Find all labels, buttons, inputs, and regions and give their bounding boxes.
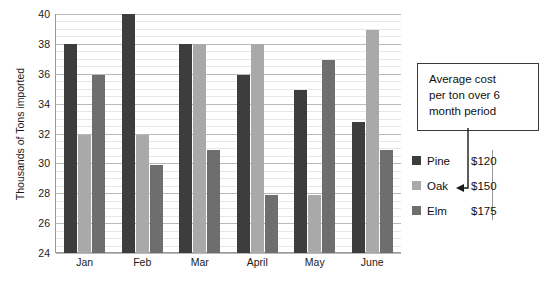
legend-item-label: Elm <box>427 205 471 217</box>
legend-item-pine[interactable]: Pine$120 <box>412 148 542 173</box>
x-axis-tick-label: Jan <box>56 256 114 269</box>
bar-group <box>286 14 344 253</box>
bar-oak[interactable] <box>251 44 264 253</box>
bar-group <box>114 14 172 253</box>
y-axis-tick-label: 32 <box>8 129 50 139</box>
legend-item-label: Oak <box>427 180 471 192</box>
x-axis-tick-label: May <box>286 256 344 269</box>
legend: Pine$120Oak$150Elm$175 <box>412 148 542 223</box>
bar-pine[interactable] <box>352 122 365 253</box>
bar-oak[interactable] <box>193 44 206 253</box>
bar-pine[interactable] <box>294 90 307 253</box>
callout-line-3: month period <box>429 103 538 119</box>
bar-oak[interactable] <box>136 135 149 253</box>
plot-area <box>56 14 401 253</box>
legend-item-oak[interactable]: Oak$150 <box>412 173 542 198</box>
bar-oak[interactable] <box>366 30 379 253</box>
bar-elm[interactable] <box>265 195 278 253</box>
bar-pine[interactable] <box>122 14 135 253</box>
y-axis-ticks: 403836343230282624 <box>6 14 50 253</box>
legend-item-elm[interactable]: Elm$175 <box>412 198 542 223</box>
bar-oak[interactable] <box>308 195 321 253</box>
x-axis-tick-label: April <box>229 256 287 269</box>
bar-chart: Thousands of Tons imported 4038363432302… <box>0 0 548 292</box>
legend-item-value: $175 <box>471 205 497 217</box>
x-axis-ticks: JanFebMarAprilMayJune <box>56 256 401 269</box>
average-cost-callout: Average cost per ton over 6 month period <box>417 63 539 131</box>
legend-swatch-icon <box>412 206 421 215</box>
callout-line-2: per ton over 6 <box>429 87 538 103</box>
callout-line-1: Average cost <box>429 71 538 87</box>
legend-swatch-icon <box>412 156 421 165</box>
y-axis-tick-label: 30 <box>8 158 50 168</box>
y-axis-tick-label: 38 <box>8 39 50 49</box>
x-axis-tick-label: Feb <box>114 256 172 269</box>
gridline-major <box>56 253 401 254</box>
y-axis-tick-label: 36 <box>8 69 50 79</box>
x-axis-tick-label: Mar <box>171 256 229 269</box>
bar-elm[interactable] <box>92 75 105 253</box>
bar-elm[interactable] <box>322 60 335 253</box>
bar-group <box>229 14 287 253</box>
y-axis-tick-label: 34 <box>8 99 50 109</box>
bar-group <box>56 14 114 253</box>
y-axis-tick-label: 26 <box>8 218 50 228</box>
y-axis-tick-label: 40 <box>8 9 50 19</box>
bar-pine[interactable] <box>64 44 77 253</box>
y-axis-tick-label: 24 <box>8 248 50 258</box>
bar-elm[interactable] <box>380 150 393 253</box>
bar-elm[interactable] <box>207 150 220 253</box>
legend-item-label: Pine <box>427 155 471 167</box>
bar-groups <box>56 14 401 253</box>
bar-elm[interactable] <box>150 165 163 253</box>
x-axis-tick-label: June <box>344 256 402 269</box>
bar-group <box>171 14 229 253</box>
legend-item-value: $120 <box>471 155 497 167</box>
y-axis-tick-label: 28 <box>8 188 50 198</box>
bar-group <box>344 14 402 253</box>
legend-item-value: $150 <box>471 180 497 192</box>
bar-oak[interactable] <box>78 135 91 253</box>
bar-pine[interactable] <box>179 44 192 253</box>
legend-swatch-icon <box>412 181 421 190</box>
bar-pine[interactable] <box>237 75 250 253</box>
